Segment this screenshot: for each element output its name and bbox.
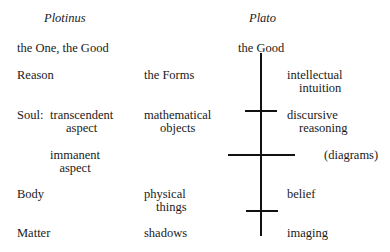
- plato-intellectual: intellectual intuition: [287, 69, 343, 95]
- plato-discursive: discursive reasoning: [287, 109, 348, 135]
- plotinus-one: the One, the Good: [17, 42, 109, 55]
- divided-line-vertical: [260, 53, 262, 236]
- discursive-line2: reasoning: [287, 122, 348, 135]
- plotinus-reason: Reason: [17, 69, 54, 82]
- intellectual-line2: intuition: [287, 82, 343, 95]
- divided-line-crossbar-2: [228, 154, 295, 156]
- object-forms: the Forms: [144, 69, 194, 82]
- immanent-line2: aspect: [50, 162, 100, 175]
- plotinus-transcendent: transcendent aspect: [50, 109, 113, 135]
- object-shadows: shadows: [144, 227, 187, 240]
- plotinus-immanent: immanent aspect: [50, 149, 100, 175]
- transcendent-line2: aspect: [50, 122, 113, 135]
- object-physical: physical things: [144, 188, 187, 214]
- plotinus-soul: Soul:: [17, 109, 43, 122]
- header-plotinus: Plotinus: [44, 12, 86, 25]
- plotinus-matter: Matter: [17, 227, 50, 240]
- plato-diagrams: (diagrams): [324, 149, 378, 162]
- divided-line-crossbar-3: [246, 210, 278, 212]
- plato-imaging: imaging: [287, 227, 328, 240]
- header-plato: Plato: [249, 12, 276, 25]
- divided-line-crossbar-1: [245, 110, 277, 112]
- math-line2: objects: [144, 122, 211, 135]
- plato-belief: belief: [287, 188, 315, 201]
- object-mathematical: mathematical objects: [144, 109, 211, 135]
- plotinus-body: Body: [17, 188, 44, 201]
- physical-line2: things: [144, 201, 187, 214]
